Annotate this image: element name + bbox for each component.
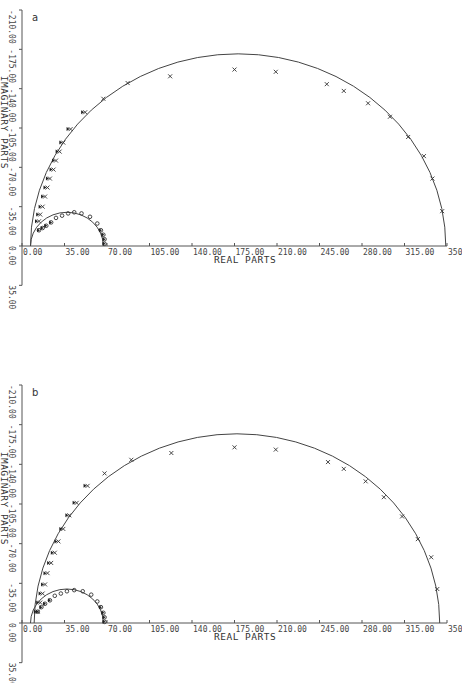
x-marker: [168, 74, 172, 78]
x-marker: [422, 154, 426, 158]
x-tick-label: 70.00: [108, 248, 132, 257]
x-marker: [429, 555, 433, 559]
y-tick-label: -70.00: [7, 167, 16, 196]
y-tick-label: -35.00: [7, 583, 16, 612]
x-tick-label: 315.00: [406, 625, 435, 634]
o-marker: [53, 594, 57, 598]
x-marker: [126, 81, 130, 85]
y-axis-title: IMAGINARY PARTS: [0, 76, 10, 169]
x-tick-label: 315.00: [406, 248, 435, 257]
y-tick-label: -70.00: [7, 544, 16, 573]
y-tick-label: 0.00: [7, 623, 16, 642]
small-semicircle-fit: [31, 589, 104, 623]
x-tick-label: 105.00: [151, 625, 180, 634]
x-tick-label: 70.00: [108, 625, 132, 634]
x-marker: [274, 70, 278, 74]
x-tick-label: 0.00: [23, 248, 42, 257]
x-tick-label: 210.00: [278, 248, 307, 257]
x-axis-title: REAL PARTS: [214, 254, 276, 265]
y-tick-label: -210.00: [7, 10, 16, 44]
o-marker: [95, 222, 99, 226]
o-marker: [65, 589, 69, 593]
y-tick-label: -210.00: [7, 385, 16, 419]
x-tick-label: 350: [448, 625, 462, 634]
large-semicircle-fit: [31, 54, 446, 246]
x-marker: [103, 471, 107, 475]
panel-label: a: [32, 12, 38, 23]
x-marker: [233, 445, 237, 449]
x-marker: [366, 101, 370, 105]
x-tick-label: 245.00: [321, 248, 350, 257]
x-tick-label: 280.00: [363, 625, 392, 634]
x-marker: [382, 495, 386, 499]
x-marker: [326, 460, 330, 464]
x-tick-label: 350: [448, 248, 462, 257]
x-marker: [342, 89, 346, 93]
x-tick-label: 35.00: [66, 248, 90, 257]
x-tick-label: 280.00: [363, 248, 392, 257]
x-tick-label: 105.00: [151, 248, 180, 257]
x-marker: [400, 514, 404, 518]
o-marker: [60, 214, 64, 218]
x-marker: [274, 448, 278, 452]
x-tick-label: 0.00: [23, 625, 42, 634]
o-marker: [95, 600, 99, 604]
x-marker: [169, 451, 173, 455]
x-marker: [364, 479, 368, 483]
x-tick-label: 35.00: [66, 625, 90, 634]
o-marker: [88, 215, 92, 219]
y-tick-label: 35.00: [7, 663, 16, 683]
x-marker: [435, 587, 439, 591]
x-marker: [233, 68, 237, 72]
x-marker: [342, 467, 346, 471]
large-semicircle-fit: [34, 434, 440, 623]
panel-label: b: [32, 387, 38, 398]
chart-panel-b: -210.00-175.00-140.00-105.00-70.00-35.00…: [0, 385, 462, 683]
y-tick-label: 0.00: [7, 246, 16, 265]
chart-panel-a: -210.00-175.00-140.00-105.00-70.00-35.00…: [0, 10, 462, 310]
y-axis-title: IMAGINARY PARTS: [0, 452, 10, 545]
nyquist-figure: -210.00-175.00-140.00-105.00-70.00-35.00…: [0, 0, 462, 683]
x-tick-label: 210.00: [278, 625, 307, 634]
o-marker: [59, 592, 63, 596]
o-marker: [54, 216, 58, 220]
x-marker: [325, 82, 329, 86]
y-tick-label: 35.00: [7, 285, 16, 309]
x-axis-title: REAL PARTS: [214, 631, 276, 642]
y-tick-label: -35.00: [7, 207, 16, 236]
x-tick-label: 245.00: [321, 625, 350, 634]
o-marker: [89, 593, 93, 597]
